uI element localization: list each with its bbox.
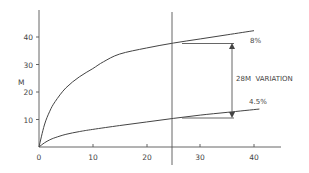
x-tick-label: 10 <box>88 153 98 162</box>
x-tick-label: 40 <box>249 153 259 162</box>
y-tick-label: 10 <box>23 116 33 125</box>
curve-4-5-percent <box>39 109 259 147</box>
y-tick-label: 40 <box>23 33 33 42</box>
label-8-percent: 8% <box>250 37 261 45</box>
x-tick-label: 20 <box>142 153 152 162</box>
curve-8-percent <box>39 31 254 147</box>
label-4-5-percent: 4.5% <box>249 98 267 106</box>
y-tick-label: 30 <box>23 61 33 70</box>
x-tick-label: 0 <box>37 153 42 162</box>
y-axis-label: M <box>18 78 24 87</box>
x-tick-label: 30 <box>195 153 205 162</box>
y-tick-label: 20 <box>23 88 33 97</box>
line-chart: 40 30 20 10 M 0 10 20 30 40 8% 4.5% 28M … <box>0 0 309 173</box>
chart-container: 40 30 20 10 M 0 10 20 30 40 8% 4.5% 28M … <box>0 0 309 173</box>
label-variation: 28M VARIATION <box>236 75 293 83</box>
